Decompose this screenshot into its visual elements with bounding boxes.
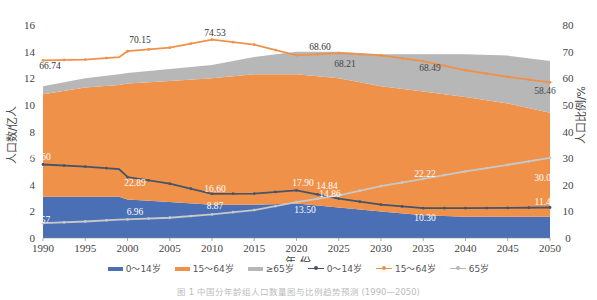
svg-text:5.57: 5.57 — [34, 215, 51, 225]
svg-text:10: 10 — [24, 99, 36, 111]
legend-item-line-65: 65岁 — [450, 262, 489, 275]
svg-text:14: 14 — [24, 46, 36, 58]
legend-label: ≥65岁 — [266, 262, 294, 275]
svg-text:年 份: 年 份 — [285, 255, 311, 262]
legend-swatch-blue — [108, 267, 123, 271]
svg-text:66.74: 66.74 — [39, 61, 61, 71]
svg-text:人口比例/%: 人口比例/% — [574, 86, 588, 144]
legend-item-area-0-14: 0～14岁 — [108, 262, 161, 275]
svg-text:11.45: 11.45 — [534, 197, 555, 207]
svg-text:58.46: 58.46 — [534, 86, 556, 96]
svg-text:2040: 2040 — [455, 242, 478, 254]
chart-legend: 0～14岁 15～64岁 ≥65岁 0～14岁 15～64岁 65岁 — [0, 262, 597, 275]
legend-item-area-65: ≥65岁 — [248, 262, 294, 275]
legend-item-area-15-64: 15～64岁 — [175, 262, 234, 275]
legend-swatch-orange — [175, 267, 190, 271]
svg-text:1990: 1990 — [32, 242, 55, 254]
svg-text:2035: 2035 — [412, 242, 435, 254]
svg-text:2030: 2030 — [370, 242, 393, 254]
svg-text:2010: 2010 — [201, 242, 224, 254]
svg-text:68.21: 68.21 — [334, 59, 356, 69]
svg-text:1995: 1995 — [74, 242, 97, 254]
legend-swatch-gray — [248, 267, 263, 271]
svg-text:80: 80 — [563, 19, 575, 31]
svg-text:10.30: 10.30 — [414, 213, 436, 223]
svg-text:8: 8 — [30, 126, 36, 138]
svg-text:10: 10 — [563, 205, 575, 217]
svg-text:13.50: 13.50 — [294, 205, 316, 215]
legend-label: 15～64岁 — [193, 262, 234, 275]
svg-text:17.90: 17.90 — [292, 178, 314, 188]
svg-text:人口数/亿人: 人口数/亿人 — [6, 106, 19, 165]
legend-label: 0～14岁 — [327, 262, 362, 275]
legend-item-line-15-64: 15～64岁 — [376, 262, 436, 275]
svg-text:4: 4 — [30, 179, 36, 191]
svg-text:27.60: 27.60 — [29, 152, 51, 162]
svg-text:70.15: 70.15 — [129, 35, 151, 45]
svg-text:16.60: 16.60 — [204, 184, 226, 194]
svg-text:68.60: 68.60 — [309, 42, 331, 52]
legend-label: 15～64岁 — [395, 262, 436, 275]
svg-text:2005: 2005 — [159, 242, 182, 254]
svg-text:30: 30 — [563, 152, 575, 164]
svg-text:0: 0 — [565, 232, 571, 244]
svg-text:0: 0 — [30, 232, 36, 244]
svg-text:60: 60 — [563, 72, 575, 84]
svg-text:16: 16 — [24, 19, 36, 31]
legend-label: 0～14岁 — [126, 262, 161, 275]
legend-line-marker-icon — [376, 268, 392, 270]
svg-text:2025: 2025 — [328, 242, 351, 254]
svg-text:30.09: 30.09 — [534, 173, 556, 183]
legend-line-marker-icon — [450, 268, 466, 270]
svg-text:2020: 2020 — [286, 242, 309, 254]
svg-text:14.86: 14.86 — [319, 189, 341, 199]
svg-text:12: 12 — [24, 72, 35, 84]
svg-text:50: 50 — [563, 99, 575, 111]
svg-text:2050: 2050 — [539, 242, 562, 254]
svg-text:22.22: 22.22 — [414, 169, 436, 179]
svg-text:2000: 2000 — [117, 242, 140, 254]
svg-text:68.49: 68.49 — [419, 63, 441, 73]
svg-text:20: 20 — [563, 179, 575, 191]
svg-text:70: 70 — [563, 46, 575, 58]
population-chart: 1990199520002005201020152020202520302035… — [0, 0, 597, 262]
figure-caption: 图 1 中国分年龄组人口数量图与比例趋势预测 (1990—2050) — [0, 285, 597, 297]
svg-text:22.89: 22.89 — [124, 178, 146, 188]
svg-text:8.87: 8.87 — [207, 201, 224, 211]
svg-text:2045: 2045 — [497, 242, 520, 254]
svg-text:40: 40 — [563, 126, 575, 138]
svg-text:6.96: 6.96 — [127, 207, 144, 217]
svg-text:2015: 2015 — [243, 242, 266, 254]
svg-text:74.53: 74.53 — [204, 28, 226, 38]
legend-item-line-0-14: 0～14岁 — [308, 262, 362, 275]
legend-line-marker-icon — [308, 268, 324, 270]
legend-label: 65岁 — [469, 262, 489, 275]
